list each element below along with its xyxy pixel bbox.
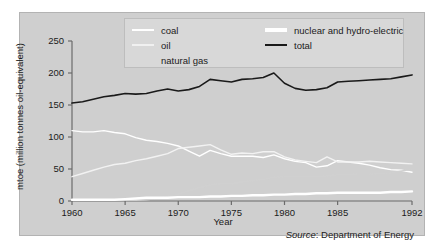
- y-tick-label: 0: [20, 195, 64, 206]
- chart-legend: coal oil natural gas nuclear and hydro-e…: [124, 18, 404, 68]
- chart-panel: 050100150200250 196019651970197519801985…: [19, 12, 425, 236]
- legend-item-total[interactable]: total: [265, 38, 403, 52]
- series-line-coal: [72, 131, 412, 173]
- source-label: Source: [286, 229, 316, 240]
- chart-figure: 050100150200250 196019651970197519801985…: [0, 0, 439, 248]
- x-axis-ticks: [72, 201, 412, 205]
- legend-column-right: nuclear and hydro-electric total: [265, 23, 403, 53]
- legend-item-natural-gas[interactable]: natural gas: [132, 53, 208, 67]
- legend-item-oil[interactable]: oil: [132, 38, 208, 52]
- y-tick-label: 100: [20, 131, 64, 142]
- legend-item-coal[interactable]: coal: [132, 23, 208, 37]
- y-tick-label: 150: [20, 99, 64, 110]
- nuclear-line-swatch: [265, 28, 287, 32]
- source-note: Source: Department of Energy: [286, 229, 414, 240]
- y-axis-title: mtoe (million tonnes oil-equivalent): [14, 0, 25, 242]
- legend-label-oil: oil: [161, 40, 171, 51]
- legend-label-natural-gas: natural gas: [161, 55, 208, 66]
- y-tick-label: 200: [20, 67, 64, 78]
- legend-column-left: coal oil natural gas: [132, 23, 208, 68]
- x-axis-title: Year: [20, 216, 426, 227]
- total-line-swatch: [265, 44, 287, 46]
- legend-label-total: total: [294, 40, 312, 51]
- series-line-nuclear-and-hydro-electric: [72, 191, 412, 199]
- data-series-group: [72, 73, 412, 200]
- series-line-oil: [72, 145, 412, 177]
- coal-line-swatch: [132, 29, 154, 31]
- legend-label-coal: coal: [161, 25, 178, 36]
- y-tick-label: 250: [20, 35, 64, 46]
- series-line-total: [72, 73, 412, 103]
- oil-line-swatch: [132, 44, 154, 46]
- legend-item-nuclear[interactable]: nuclear and hydro-electric: [265, 23, 403, 37]
- y-tick-label: 50: [20, 163, 64, 174]
- legend-label-nuclear: nuclear and hydro-electric: [294, 25, 403, 36]
- source-value: Department of Energy: [321, 229, 414, 240]
- natural-gas-line-swatch: [132, 59, 154, 61]
